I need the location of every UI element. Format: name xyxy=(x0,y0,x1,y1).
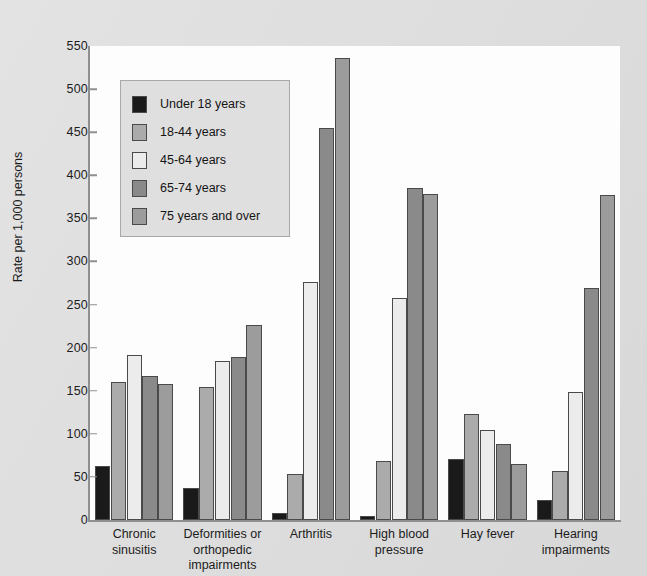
y-tick-label: 0 xyxy=(44,513,88,527)
y-axis-title: Rate per 1,000 persons xyxy=(11,137,25,297)
y-tick-label: 50 xyxy=(44,470,88,484)
legend-item[interactable]: 65-74 years xyxy=(121,174,289,202)
chart-legend: Under 18 years18-44 years45-64 years65-7… xyxy=(120,80,290,237)
y-tick-mark xyxy=(90,304,97,306)
bar[interactable] xyxy=(552,471,567,520)
legend-item[interactable]: 75 years and over xyxy=(121,202,289,230)
bar[interactable] xyxy=(448,459,463,520)
y-tick-label: 100 xyxy=(44,427,88,441)
bar[interactable] xyxy=(287,474,302,520)
y-tick-label: 500 xyxy=(44,82,88,96)
y-tick-label: 250 xyxy=(44,298,88,312)
x-category-label: Hearingimpairments xyxy=(520,527,632,558)
legend-item-label: 18-44 years xyxy=(160,125,226,139)
y-tick-mark xyxy=(90,347,97,349)
y-tick-mark xyxy=(90,433,97,435)
bar[interactable] xyxy=(158,384,173,520)
bar[interactable] xyxy=(496,444,511,520)
bar[interactable] xyxy=(215,361,230,520)
bar[interactable] xyxy=(246,325,261,520)
x-category-label-line: pressure xyxy=(343,543,455,559)
bar[interactable] xyxy=(111,382,126,520)
y-tick-label: 450 xyxy=(44,125,88,139)
y-tick-label: 550 xyxy=(44,39,88,53)
bar[interactable] xyxy=(142,376,157,520)
x-axis-category-labels: ChronicsinusitisDeformities ororthopedic… xyxy=(90,527,620,576)
legend-item-label: 45-64 years xyxy=(160,153,226,167)
y-tick-label: 400 xyxy=(44,168,88,182)
bar[interactable] xyxy=(568,392,583,520)
bar[interactable] xyxy=(231,357,246,520)
y-tick-mark xyxy=(90,261,97,263)
bar[interactable] xyxy=(127,355,142,520)
bar-group xyxy=(532,46,620,520)
y-axis-tick-labels: 050100150200250300350400450500550 xyxy=(36,0,88,576)
bar[interactable] xyxy=(199,387,214,520)
legend-item[interactable]: 45-64 years xyxy=(121,146,289,174)
bar[interactable] xyxy=(392,298,407,520)
legend-color-swatch xyxy=(132,208,147,225)
bar[interactable] xyxy=(376,461,391,520)
legend-item-label: Under 18 years xyxy=(160,97,245,111)
bar-group xyxy=(443,46,531,520)
bar[interactable] xyxy=(303,282,318,520)
x-category-label-line: orthopedic xyxy=(166,543,278,559)
y-tick-label: 150 xyxy=(44,384,88,398)
x-axis-line xyxy=(88,520,621,522)
bar[interactable] xyxy=(464,414,479,520)
y-tick-mark xyxy=(90,218,97,220)
legend-item-label: 65-74 years xyxy=(160,181,226,195)
bar[interactable] xyxy=(360,516,375,520)
bar[interactable] xyxy=(319,128,334,520)
x-category-label-line: impairments xyxy=(166,558,278,574)
y-tick-mark xyxy=(90,88,97,90)
x-category-label-line: Hearing xyxy=(520,527,632,543)
y-tick-label: 350 xyxy=(44,211,88,225)
legend-item[interactable]: 18-44 years xyxy=(121,118,289,146)
bar[interactable] xyxy=(584,288,599,520)
bar[interactable] xyxy=(183,488,198,520)
chart-figure: 050100150200250300350400450500550 Rate p… xyxy=(0,0,647,576)
y-tick-label: 200 xyxy=(44,341,88,355)
x-category-label-line: impairments xyxy=(520,543,632,559)
bar[interactable] xyxy=(272,513,287,520)
y-tick-mark xyxy=(90,390,97,392)
legend-item[interactable]: Under 18 years xyxy=(121,90,289,118)
y-tick-mark xyxy=(90,175,97,177)
bar[interactable] xyxy=(407,188,422,520)
legend-item-label: 75 years and over xyxy=(160,209,260,223)
bar[interactable] xyxy=(95,466,110,520)
legend-color-swatch xyxy=(132,152,147,169)
y-tick-mark xyxy=(90,131,97,133)
bar-group xyxy=(355,46,443,520)
bar[interactable] xyxy=(600,195,615,520)
legend-color-swatch xyxy=(132,124,147,141)
bar[interactable] xyxy=(480,430,495,520)
bar[interactable] xyxy=(537,500,552,520)
y-tick-mark xyxy=(90,476,97,478)
y-tick-label: 300 xyxy=(44,254,88,268)
legend-color-swatch xyxy=(132,96,147,113)
legend-color-swatch xyxy=(132,180,147,197)
bar[interactable] xyxy=(511,464,526,520)
bar[interactable] xyxy=(423,194,438,520)
bar[interactable] xyxy=(335,58,350,520)
